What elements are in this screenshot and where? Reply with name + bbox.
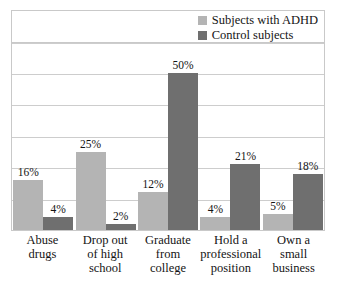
bar-wrap-adhd: 25% <box>76 43 106 230</box>
category-label-graduate-from-college: Graduate from college <box>137 233 200 275</box>
bar-group-drop-out-of-high-school: 25% 2% <box>74 43 136 230</box>
bar-wrap-control: 2% <box>106 43 136 230</box>
category-label-hold-a-professional-position: Hold a professional position <box>199 233 262 275</box>
legend-swatch-adhd <box>198 16 207 25</box>
chart-legend-panel: Subjects with ADHD Control subjects <box>11 10 325 42</box>
bar-control: 18% <box>293 174 323 231</box>
category-label-drop-out-of-high-school: Drop out of high school <box>74 233 137 275</box>
category-line: Hold a <box>199 233 262 247</box>
bar-value-label: 18% <box>297 159 318 174</box>
legend-label-adhd: Subjects with ADHD <box>212 14 318 27</box>
bar-value-label: 2% <box>113 209 128 224</box>
bar-wrap-control: 50% <box>168 43 198 230</box>
category-line: Own a <box>262 233 325 247</box>
legend-items: Subjects with ADHD Control subjects <box>198 13 318 42</box>
bar-wrap-control: 21% <box>230 43 260 230</box>
bar-wrap-adhd: 12% <box>138 43 168 230</box>
bar-adhd: 5% <box>263 214 293 230</box>
bars-container: 16% 4% 25% 2% <box>12 43 324 230</box>
grouped-bar-chart: Subjects with ADHD Control subjects 16% <box>0 0 339 290</box>
bar-wrap-control: 4% <box>43 43 73 230</box>
category-line: from <box>137 247 200 261</box>
category-line: Graduate <box>137 233 200 247</box>
bar-value-label: 21% <box>235 149 256 164</box>
category-line: professional <box>199 247 262 261</box>
bar-control: 21% <box>230 164 260 230</box>
bar-wrap-adhd: 16% <box>13 43 43 230</box>
bar-group-own-a-small-business: 5% 18% <box>262 43 324 230</box>
category-line: drugs <box>11 247 74 261</box>
legend-label-control: Control subjects <box>212 29 294 42</box>
category-line: small <box>262 247 325 261</box>
bar-value-label: 4% <box>208 202 223 217</box>
plot-area-frame: 16% 4% 25% 2% <box>11 42 325 231</box>
category-axis: Abuse drugs Drop out of high school Grad… <box>11 233 325 275</box>
category-line: college <box>137 261 200 275</box>
category-line: school <box>74 261 137 275</box>
bar-value-label: 4% <box>51 202 66 217</box>
legend-item-adhd: Subjects with ADHD <box>198 13 318 27</box>
bar-group-hold-a-professional-position: 4% 21% <box>199 43 261 230</box>
bar-value-label: 16% <box>18 165 39 180</box>
category-line: of high <box>74 247 137 261</box>
bar-wrap-control: 18% <box>293 43 323 230</box>
category-label-abuse-drugs: Abuse drugs <box>11 233 74 275</box>
category-line: business <box>262 261 325 275</box>
bar-control: 2% <box>106 224 136 230</box>
bar-adhd: 25% <box>76 152 106 230</box>
bar-value-label: 5% <box>270 199 285 214</box>
bar-adhd: 16% <box>13 180 43 230</box>
bar-control: 4% <box>43 217 73 230</box>
bar-adhd: 4% <box>200 217 230 230</box>
bar-wrap-adhd: 5% <box>263 43 293 230</box>
bar-adhd: 12% <box>138 192 168 230</box>
legend-swatch-control <box>198 31 207 40</box>
bar-value-label: 25% <box>80 137 101 152</box>
bar-wrap-adhd: 4% <box>200 43 230 230</box>
category-line: Drop out <box>74 233 137 247</box>
bar-value-label: 50% <box>172 58 193 73</box>
bar-value-label: 12% <box>142 177 163 192</box>
category-line: position <box>199 261 262 275</box>
category-label-own-a-small-business: Own a small business <box>262 233 325 275</box>
bar-control: 50% <box>168 73 198 230</box>
legend-item-control: Control subjects <box>198 28 318 42</box>
bar-group-graduate-from-college: 12% 50% <box>137 43 199 230</box>
bar-group-abuse-drugs: 16% 4% <box>12 43 74 230</box>
category-line: Abuse <box>11 233 74 247</box>
